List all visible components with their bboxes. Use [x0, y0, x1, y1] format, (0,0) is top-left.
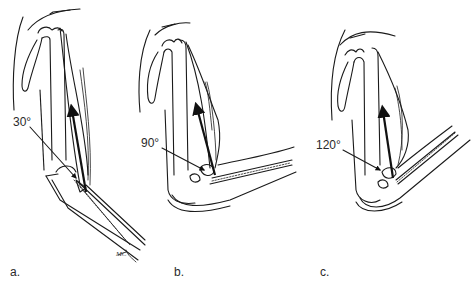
panel-label-b: b. — [174, 266, 184, 278]
angle-label-a: 30° — [13, 116, 31, 128]
artist-signature: MC — [116, 250, 127, 258]
angle-label-b: 90° — [141, 137, 159, 149]
panel-c-drawing — [331, 30, 470, 211]
panel-label-c: c. — [320, 266, 329, 278]
panel-label-a: a. — [10, 266, 20, 278]
elbow-flexion-diagram: 30° 90° 120° a. b. c. MC — [0, 0, 475, 286]
panel-b-drawing — [139, 23, 296, 212]
panel-a-drawing — [13, 9, 145, 262]
angle-label-c: 120° — [316, 139, 341, 151]
diagram-drawings — [0, 0, 475, 286]
